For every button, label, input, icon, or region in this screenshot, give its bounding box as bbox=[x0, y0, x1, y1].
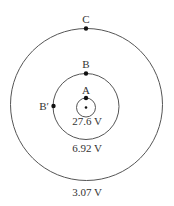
point-c-label: C bbox=[82, 13, 89, 25]
outer-equipotential-circle bbox=[11, 29, 163, 181]
point-b-label: B bbox=[82, 58, 89, 70]
point-a-dot bbox=[84, 96, 88, 100]
equipotential-diagram: A B B′ C 27.6 V 6.92 V 3.07 V bbox=[0, 0, 174, 206]
point-b-dot bbox=[84, 71, 88, 75]
point-b-prime-label: B′ bbox=[39, 100, 49, 112]
middle-potential-label: 6.92 V bbox=[72, 142, 102, 154]
point-a-label: A bbox=[82, 84, 90, 96]
point-c-dot bbox=[84, 26, 88, 30]
center-charge-dot bbox=[85, 106, 88, 109]
outer-potential-label: 3.07 V bbox=[72, 186, 102, 198]
point-b-prime-dot bbox=[51, 104, 55, 108]
inner-potential-label: 27.6 V bbox=[72, 115, 102, 127]
